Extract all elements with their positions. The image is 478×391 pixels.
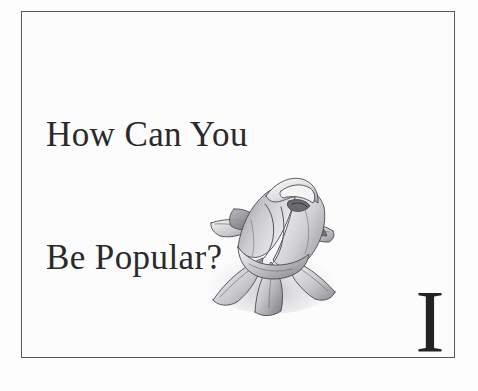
chapter-opening-page: How Can You Be Popular? bbox=[0, 0, 478, 391]
rose-illustration bbox=[193, 152, 351, 317]
page-title-line-1: How Can You bbox=[46, 114, 376, 155]
chapter-numeral: I bbox=[402, 276, 458, 368]
